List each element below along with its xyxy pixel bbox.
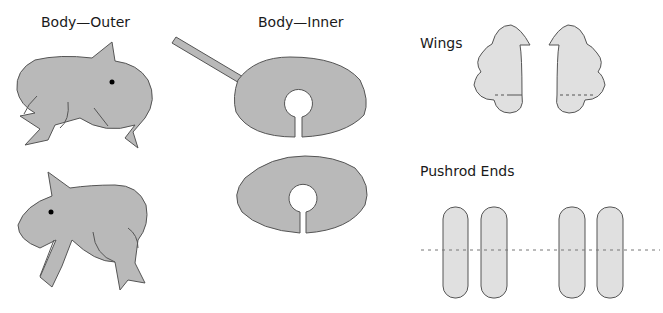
eye-icon — [110, 80, 115, 85]
wings — [474, 25, 605, 113]
pushrod-end-4 — [597, 207, 623, 298]
pattern-diagram — [0, 0, 663, 313]
body-inner-bottom — [237, 156, 367, 233]
eye-icon — [49, 210, 54, 215]
pushrod-end-2 — [481, 207, 507, 298]
pushrod-end-1 — [443, 207, 468, 298]
wing-right — [549, 25, 605, 113]
pushrod-ends — [421, 207, 660, 298]
body-outer-bottom — [18, 172, 147, 290]
body-inner-top — [172, 37, 366, 137]
pushrod-end-3 — [559, 207, 585, 298]
wing-left — [474, 25, 530, 113]
body-outer-top — [17, 42, 153, 148]
